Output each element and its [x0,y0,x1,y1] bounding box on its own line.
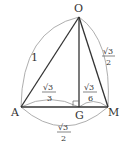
length-GM-den: 6 [88,94,93,103]
length-GM-num: √3 [84,83,94,92]
length-AM-num: √3 [58,123,68,132]
length-OM-den: 2 [106,58,111,67]
length-OA-label: 1 [31,51,38,64]
vertex-A-label: A [10,106,20,119]
length-AM-den: 2 [61,134,66,143]
vertex-M-label: M [108,106,119,119]
vertex-G-label: G [75,109,84,122]
edge-OM [79,17,108,107]
length-AG-num: √3 [43,83,53,92]
length-OM-num: √3 [103,47,113,56]
triangle-diagram: O A G M 1 √3 2 √3 3 √3 6 √3 2 [0,0,130,145]
vertex-O-label: O [74,2,83,15]
length-AG-den: 3 [47,94,52,103]
arc-GM [79,102,108,108]
